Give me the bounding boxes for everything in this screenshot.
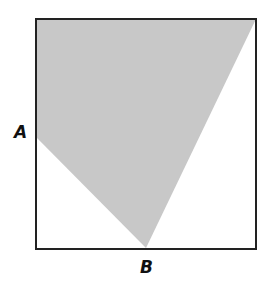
point-label-a: A [14,124,27,141]
shaded-region [36,19,256,248]
square-diagram [0,0,271,286]
point-label-b: B [140,259,153,276]
